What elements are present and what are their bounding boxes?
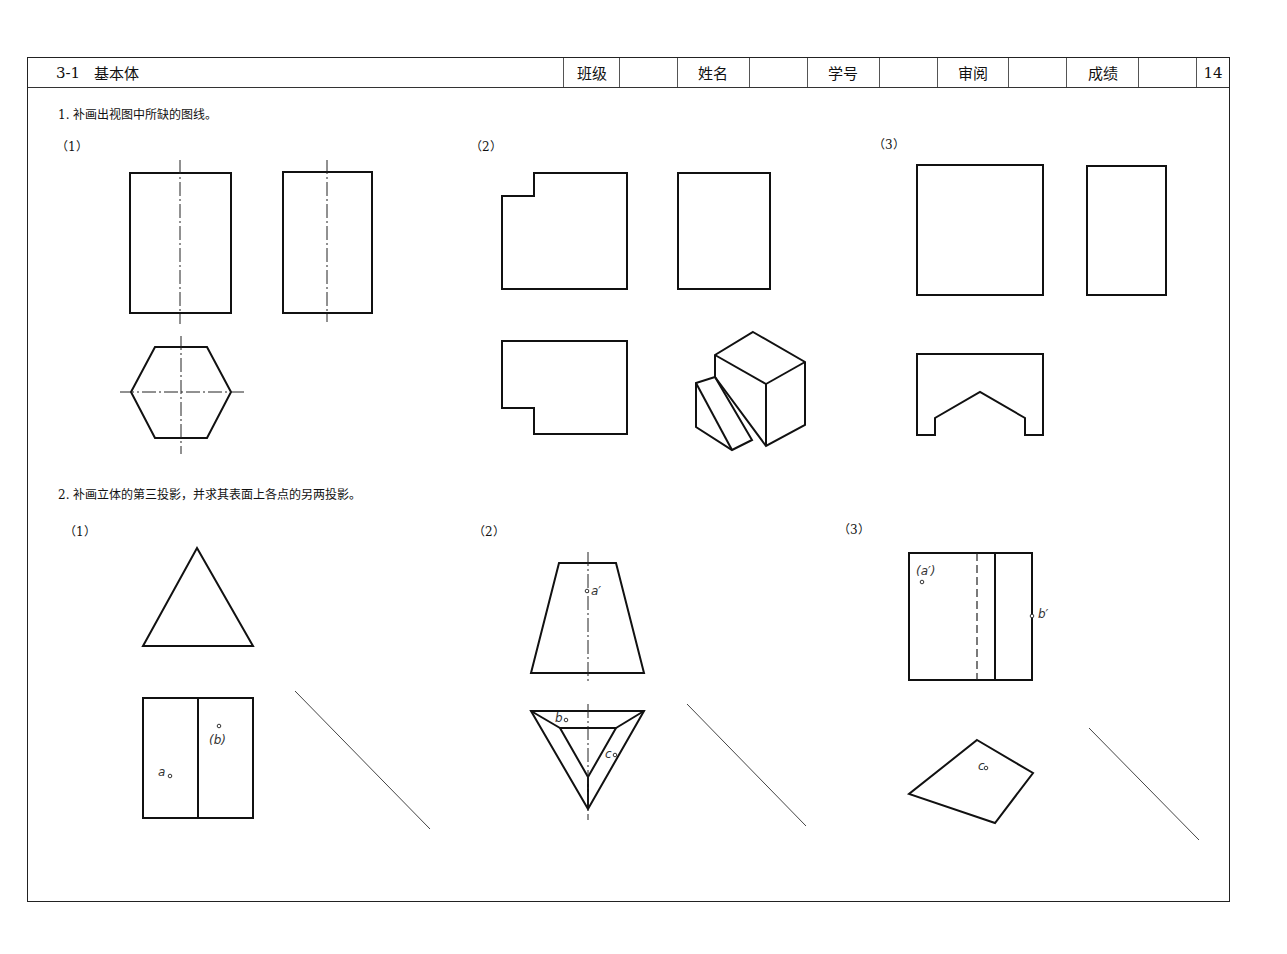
point-b-prime — [1030, 614, 1034, 618]
point-c — [984, 766, 988, 770]
label-c: c — [605, 747, 612, 761]
point-a — [168, 774, 172, 778]
label-a: a — [158, 765, 165, 779]
point-b — [564, 718, 568, 722]
drawings-canvas: a (b) a′ b c (a′) b′ c — [0, 0, 1287, 954]
label-b-prime: b′ — [1038, 607, 1049, 621]
construction-line-3 — [1089, 728, 1199, 840]
construction-line-2 — [687, 704, 806, 826]
label-a-prime-hidden: (a′) — [916, 564, 935, 578]
construction-line-1 — [295, 691, 430, 829]
drawing-2-3-prism — [909, 553, 1033, 823]
label-c: c — [978, 759, 985, 773]
point-a-prime — [585, 589, 589, 593]
point-c — [613, 753, 617, 757]
point-a-prime — [920, 580, 924, 584]
drawing-1-3-arch-block — [917, 165, 1166, 435]
label-a-prime: a′ — [591, 584, 601, 598]
label-b: (b) — [209, 733, 226, 747]
label-b: b — [555, 711, 563, 725]
drawing-1-2-stepped-block — [502, 173, 805, 450]
point-b — [217, 724, 221, 728]
drawing-1-1-hex-prism — [130, 172, 372, 438]
